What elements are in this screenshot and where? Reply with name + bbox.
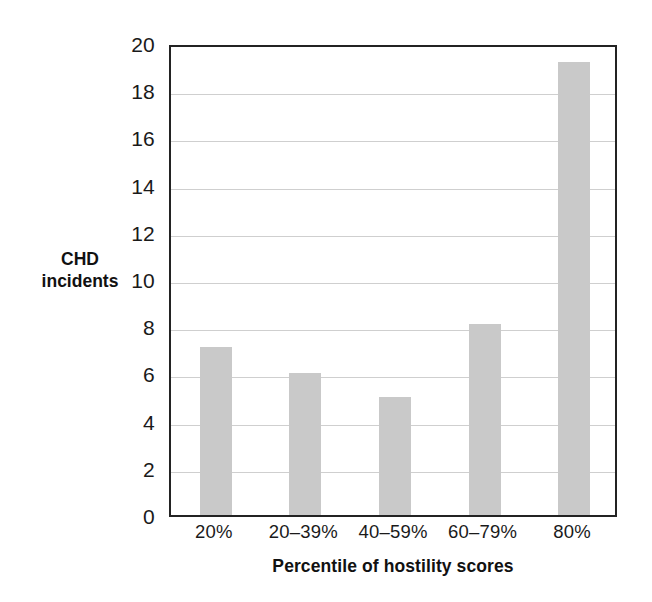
bar: [469, 324, 501, 515]
y-axis-tick-label: 20: [131, 33, 155, 57]
x-axis-title: Percentile of hostility scores: [169, 556, 617, 577]
x-axis-tick-label: 20–39%: [269, 521, 338, 543]
bar: [558, 62, 590, 515]
y-axis-tick-label: 2: [143, 458, 155, 482]
x-axis-tick-label: 60–79%: [448, 521, 517, 543]
x-axis-tick-label: 80%: [553, 521, 591, 543]
y-axis-tick-label: 18: [131, 80, 155, 104]
x-axis-tick-label: 40–59%: [358, 521, 427, 543]
y-axis-tick-label: 16: [131, 127, 155, 151]
y-axis-tick-label: 8: [143, 316, 155, 340]
y-axis-tick-label: 14: [131, 175, 155, 199]
x-axis: 20%20–39%40–59%60–79%80%: [169, 521, 617, 551]
y-axis-title-line-1: CHD: [10, 248, 150, 270]
y-axis-title: CHD incidents: [10, 248, 150, 292]
x-axis-tick-label: 20%: [195, 521, 233, 543]
y-axis-tick-label: 4: [143, 411, 155, 435]
bar: [200, 347, 232, 515]
bars-layer: [171, 47, 615, 515]
bar-chart-figure: 02468101214161820 CHD incidents 20%20–39…: [0, 0, 652, 602]
y-axis-tick-label: 12: [131, 222, 155, 246]
plot-area: [169, 45, 617, 517]
bar: [379, 397, 411, 515]
bar: [289, 373, 321, 515]
y-axis-tick-label: 6: [143, 363, 155, 387]
y-axis-title-line-2: incidents: [10, 270, 150, 292]
y-axis-tick-label: 0: [143, 505, 155, 529]
